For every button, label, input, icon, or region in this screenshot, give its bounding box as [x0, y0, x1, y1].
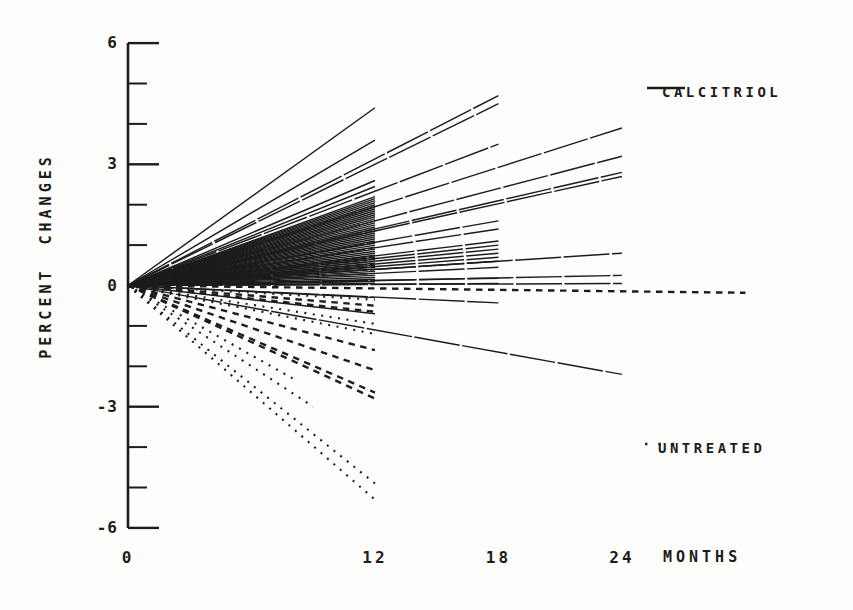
- y-tick-label: 0: [84, 276, 118, 295]
- x-tick-label: 18: [468, 548, 528, 567]
- x-tick-label: 0: [98, 548, 158, 567]
- trend-line-untreated-dotted: [128, 286, 293, 379]
- trend-line-untreated-dashed: [128, 286, 375, 399]
- legend-entry-untreated: UNTREATED: [642, 440, 765, 456]
- figure-canvas: PERCENT CHANGES MONTHS 630-3-6 0121824 C…: [0, 0, 853, 610]
- y-tick-label: -6: [84, 518, 118, 537]
- x-tick-label: 12: [345, 548, 405, 567]
- x-axis-label: MONTHS: [663, 548, 741, 566]
- x-tick-label: 24: [592, 548, 652, 567]
- y-tick-label: 3: [84, 154, 118, 173]
- y-axis-label: PERCENT CHANGES: [37, 96, 55, 416]
- y-tick-label: 6: [84, 33, 118, 52]
- legend-entry-calcitriol: CALCITRIOL: [646, 84, 781, 100]
- y-tick-label: -3: [84, 397, 118, 416]
- trend-line-untreated-dotted: [128, 286, 375, 500]
- trend-line-untreated-dotted: [128, 286, 375, 484]
